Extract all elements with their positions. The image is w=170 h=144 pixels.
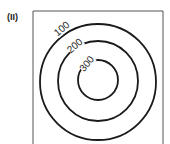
contour-label-100: 100 <box>52 19 72 38</box>
contour-label-200: 200 <box>65 36 85 55</box>
contour-diagram: 100 200 300 <box>0 0 170 144</box>
